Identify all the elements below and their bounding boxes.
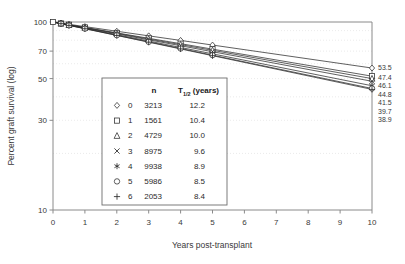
legend-n-value: 3213 [144, 101, 162, 110]
legend-n-value: 4729 [144, 131, 162, 140]
y-axis-ticks: 10070503010 [34, 18, 53, 215]
legend-thalf-value: 9.6 [194, 147, 206, 156]
end-value-label: 38.9 [378, 116, 392, 123]
legend-marker-square [114, 118, 119, 123]
legend-thalf-value: 10.4 [189, 116, 205, 125]
legend-n-value: 8975 [144, 147, 162, 156]
x-tick-label: 2 [115, 218, 120, 227]
x-tick-label: 1 [83, 218, 88, 227]
legend-thalf-value: 8.9 [194, 162, 206, 171]
legend-mismatch-count: 0 [128, 101, 133, 110]
legend-row: 2472910.0 [114, 131, 205, 140]
legend-mismatch-count: 3 [128, 147, 133, 156]
x-axis-ticks: 012345678910 [51, 210, 377, 227]
end-value-label: 44.8 [378, 91, 392, 98]
marker-diamond [369, 65, 374, 71]
legend-thalf-value: 8.4 [194, 192, 206, 201]
y-tick-label: 50 [38, 75, 47, 84]
y-axis-title: Percent graft survival (log) [6, 66, 16, 165]
chart-canvas: 10070503010 012345678910 53.547.446.144.… [0, 0, 405, 264]
legend-thalf-value: 12.2 [189, 101, 205, 110]
legend-header-n: n [152, 86, 157, 95]
end-value-labels: 53.547.446.144.841.539.738.9 [378, 64, 392, 123]
x-axis-title: Years post-transplant [172, 240, 253, 250]
legend-mismatch-count: 2 [128, 131, 133, 140]
legend-box [102, 78, 227, 205]
end-value-label: 46.1 [378, 82, 392, 89]
graft-survival-chart: 10070503010 012345678910 53.547.446.144.… [0, 0, 405, 264]
x-tick-label: 3 [146, 218, 151, 227]
legend-row: 0321312.2 [114, 101, 205, 110]
x-tick-label: 5 [210, 218, 215, 227]
x-tick-label: 10 [368, 218, 377, 227]
end-value-label: 41.5 [378, 99, 392, 106]
x-tick-label: 4 [178, 218, 183, 227]
marker-origin-square [50, 19, 55, 24]
y-tick-label: 30 [38, 116, 47, 125]
legend-n-value: 5986 [144, 177, 162, 186]
legend-n-value: 1561 [144, 116, 162, 125]
y-tick-label: 100 [34, 18, 48, 27]
legend-mismatch-count: 5 [128, 177, 133, 186]
legend-thalf-value: 8.5 [194, 177, 206, 186]
chart-legend: n T1/2 (years) 0321312.21156110.42472910… [102, 78, 227, 205]
legend-header-subscript: 1/2 [183, 91, 191, 97]
legend-header-years: (years) [191, 86, 220, 95]
legend-n-value: 9938 [144, 162, 162, 171]
end-value-label: 47.4 [378, 74, 392, 81]
x-tick-label: 6 [242, 218, 247, 227]
legend-thalf-value: 10.0 [189, 131, 205, 140]
x-tick-label: 9 [338, 218, 343, 227]
x-tick-label: 7 [274, 218, 279, 227]
legend-mismatch-count: 1 [128, 116, 133, 125]
end-value-label: 53.5 [378, 64, 392, 71]
x-tick-label: 0 [51, 218, 56, 227]
y-tick-label: 70 [38, 47, 47, 56]
end-value-label: 39.7 [378, 108, 392, 115]
legend-mismatch-count: 6 [128, 192, 133, 201]
legend-marker-circle [114, 179, 119, 184]
x-tick-label: 8 [306, 218, 311, 227]
legend-row: 1156110.4 [114, 116, 205, 125]
legend-n-value: 2053 [144, 192, 162, 201]
legend-mismatch-count: 4 [128, 162, 133, 171]
y-tick-label: 10 [38, 206, 47, 215]
